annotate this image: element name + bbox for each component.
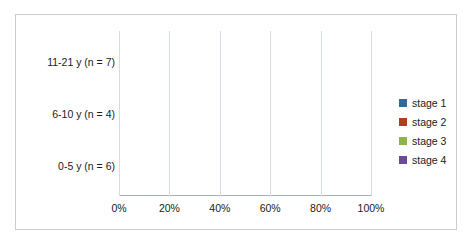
x-axis-tick-labels: 0%20%40%60%80%100%	[119, 196, 371, 218]
x-axis-tick-label: 60%	[260, 202, 281, 214]
legend-label: stage 4	[412, 154, 446, 166]
x-axis-tick-label: 80%	[310, 202, 331, 214]
legend-label: stage 2	[412, 116, 446, 128]
legend-label: stage 3	[412, 135, 446, 147]
legend-item[interactable]: stage 4	[399, 150, 474, 169]
chart-frame: 0-5 y (n = 6) 6-10 y (n = 4) 11-21 y (n …	[15, 14, 457, 230]
legend-item[interactable]: stage 3	[399, 131, 474, 150]
category-label: 6-10 y (n = 4)	[0, 108, 115, 120]
gridline	[270, 31, 271, 196]
category-label: 0-5 y (n = 6)	[0, 160, 115, 172]
gridline	[371, 31, 372, 196]
legend-item[interactable]: stage 2	[399, 112, 474, 131]
gridline	[220, 31, 221, 196]
legend-label: stage 1	[412, 97, 446, 109]
gridline	[321, 31, 322, 196]
legend: stage 1stage 2stage 3stage 4	[399, 93, 474, 169]
gridline	[169, 31, 170, 196]
x-axis-tick-label: 20%	[159, 202, 180, 214]
legend-swatch-icon	[399, 156, 407, 164]
x-axis-tick-label: 100%	[358, 202, 385, 214]
x-axis-tick-label: 0%	[111, 202, 126, 214]
category-label: 11-21 y (n = 7)	[0, 56, 115, 68]
x-axis-tick-label: 40%	[209, 202, 230, 214]
category-axis-labels: 0-5 y (n = 6) 6-10 y (n = 4) 11-21 y (n …	[0, 31, 115, 196]
legend-swatch-icon	[399, 137, 407, 145]
legend-swatch-icon	[399, 118, 407, 126]
plot-area: 0-5 y (n = 6) 6-10 y (n = 4) 11-21 y (n …	[119, 31, 371, 196]
legend-item[interactable]: stage 1	[399, 93, 474, 112]
legend-swatch-icon	[399, 99, 407, 107]
gridline	[119, 31, 120, 196]
